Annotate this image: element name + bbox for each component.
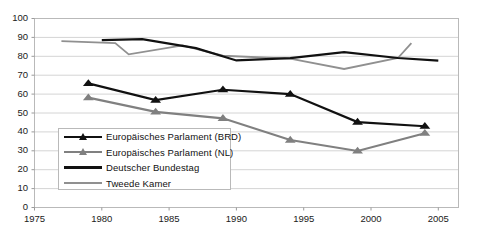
- x-tick-label: 1995: [284, 213, 324, 224]
- y-tick-label: 20: [2, 163, 28, 174]
- legend-triangle-marker-icon: [79, 148, 87, 155]
- line-chart: 0102030405060708090100 19751980198519901…: [0, 0, 481, 239]
- y-tick-label: 90: [2, 31, 28, 42]
- x-tick-label: 2000: [351, 213, 391, 224]
- data-point-ep_nl: [419, 129, 430, 136]
- legend-key-ep_nl: [63, 146, 103, 158]
- x-tick-label: 1985: [149, 213, 189, 224]
- chart-canvas: [0, 0, 481, 239]
- y-tick-label: 70: [2, 69, 28, 80]
- legend-label: Tweede Kamer: [106, 178, 171, 189]
- x-tick-label: 1990: [216, 213, 256, 224]
- legend-key-bundestag: [63, 162, 103, 174]
- legend-item-bundestag: Deutscher Bundestag: [59, 160, 230, 176]
- y-tick-label: 100: [2, 12, 28, 23]
- legend-item-tweede_kamer: Tweede Kamer: [59, 176, 230, 192]
- x-tick-label: 1975: [15, 213, 55, 224]
- legend-label: Europäisches Parlament (BRD): [106, 131, 241, 142]
- legend-label: Europäisches Parlament (NL): [106, 147, 233, 158]
- y-tick-label: 50: [2, 107, 28, 118]
- legend-triangle-marker-icon: [79, 133, 87, 140]
- y-tick-label: 30: [2, 144, 28, 155]
- chart-legend: Europäisches Parlament (BRD)Europäisches…: [58, 128, 231, 190]
- legend-label: Deutscher Bundestag: [106, 162, 199, 173]
- series-line-ep_brd: [88, 83, 425, 126]
- y-tick-label: 40: [2, 125, 28, 136]
- x-tick-label: 1980: [82, 213, 122, 224]
- y-tick-label: 10: [2, 182, 28, 193]
- series-line-tweede_kamer: [61, 41, 411, 69]
- x-tick-label: 2005: [418, 213, 458, 224]
- data-point-ep_brd: [83, 79, 94, 86]
- y-tick-label: 80: [2, 50, 28, 61]
- y-tick-label: 0: [2, 201, 28, 212]
- legend-key-tweede_kamer: [63, 177, 103, 189]
- legend-line-icon: [64, 182, 102, 185]
- legend-item-ep_brd: Europäisches Parlament (BRD): [59, 129, 230, 145]
- legend-line-icon: [64, 166, 102, 169]
- y-tick-label: 60: [2, 88, 28, 99]
- legend-key-ep_brd: [63, 131, 103, 143]
- legend-item-ep_nl: Europäisches Parlament (NL): [59, 145, 230, 161]
